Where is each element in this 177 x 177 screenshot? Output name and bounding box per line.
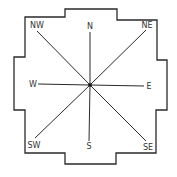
ray-ne bbox=[90, 30, 146, 85]
label-ne: NE bbox=[141, 21, 152, 30]
ray-nw bbox=[37, 31, 90, 85]
compass-diagram: NNEESESSWWNW bbox=[0, 0, 177, 177]
label-w: W bbox=[29, 80, 37, 89]
label-n: N bbox=[87, 22, 93, 31]
ray-se bbox=[90, 85, 146, 141]
label-nw: NW bbox=[30, 21, 44, 30]
label-se: SE bbox=[143, 143, 153, 152]
ray-s bbox=[89, 85, 90, 141]
label-e: E bbox=[146, 82, 151, 91]
ray-w bbox=[38, 84, 90, 85]
label-sw: SW bbox=[28, 141, 41, 150]
center-point bbox=[88, 83, 92, 87]
ray-e bbox=[90, 85, 144, 86]
label-s: S bbox=[86, 142, 91, 151]
ray-sw bbox=[35, 85, 90, 138]
